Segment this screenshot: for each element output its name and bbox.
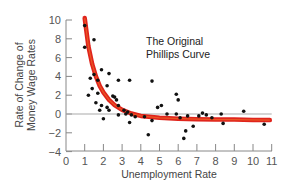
data-point bbox=[124, 112, 128, 116]
data-point bbox=[107, 108, 111, 112]
data-point bbox=[117, 104, 121, 108]
data-point bbox=[160, 104, 164, 108]
data-point bbox=[219, 112, 223, 116]
data-point bbox=[165, 112, 169, 116]
y-axis-label-line-2: Money Wage Rates bbox=[25, 39, 37, 131]
x-tick-label: 2 bbox=[100, 155, 106, 167]
x-tick-label: 5 bbox=[156, 155, 162, 167]
data-point bbox=[175, 112, 179, 116]
data-point bbox=[184, 129, 188, 133]
data-point bbox=[107, 72, 111, 76]
chart-canvas: 1086420−2−4 01234567891011 The Original … bbox=[0, 0, 291, 191]
phillips-curve-path bbox=[85, 18, 270, 120]
x-tick-label: 10 bbox=[247, 155, 259, 167]
data-point bbox=[100, 104, 104, 108]
data-point bbox=[113, 95, 117, 99]
data-point bbox=[83, 24, 87, 28]
x-tick-label: 1 bbox=[82, 155, 88, 167]
y-tick-label: 2 bbox=[55, 89, 61, 101]
data-point bbox=[175, 93, 179, 97]
phillips-curve-chart: 1086420−2−4 01234567891011 The Original … bbox=[0, 0, 291, 191]
x-axis-ticks: 01234567891011 bbox=[63, 144, 277, 167]
data-point bbox=[262, 123, 266, 127]
data-point bbox=[133, 115, 137, 119]
data-point bbox=[105, 84, 109, 88]
data-point bbox=[210, 116, 214, 120]
y-axis-label-line-1: Rate of Change of bbox=[13, 42, 25, 127]
y-tick-label: −4 bbox=[48, 146, 61, 158]
x-tick-label: 0 bbox=[63, 155, 69, 167]
data-point bbox=[94, 101, 98, 105]
y-tick-label: 0 bbox=[55, 108, 61, 120]
data-point bbox=[150, 79, 154, 83]
x-axis-label: Unemployment Rate bbox=[121, 168, 217, 180]
x-tick-label: 4 bbox=[138, 155, 144, 167]
data-point bbox=[205, 113, 209, 117]
data-point bbox=[92, 38, 96, 42]
chart-annotation-line-1: The Original bbox=[146, 35, 203, 47]
x-tick-label: 6 bbox=[175, 155, 181, 167]
y-tick-label: 4 bbox=[55, 70, 61, 82]
x-tick-label: 9 bbox=[231, 155, 237, 167]
x-tick-label: 7 bbox=[194, 155, 200, 167]
data-point bbox=[128, 121, 132, 125]
y-tick-label: 8 bbox=[55, 33, 61, 45]
data-point bbox=[98, 108, 102, 112]
data-point bbox=[191, 124, 195, 128]
data-point bbox=[201, 111, 205, 115]
data-point bbox=[96, 78, 100, 82]
data-point bbox=[128, 78, 132, 82]
x-tick-label: 11 bbox=[266, 155, 277, 167]
y-tick-label: 6 bbox=[55, 52, 61, 64]
data-point bbox=[178, 116, 182, 120]
data-point bbox=[197, 114, 201, 118]
y-axis-ticks: 1086420−2−4 bbox=[48, 14, 72, 158]
data-point bbox=[87, 93, 91, 97]
data-point bbox=[221, 122, 225, 126]
phillips-curve-line bbox=[85, 18, 270, 120]
data-point bbox=[186, 114, 190, 118]
data-point bbox=[92, 73, 96, 77]
data-point bbox=[182, 137, 186, 141]
data-point bbox=[100, 68, 104, 72]
data-point bbox=[122, 108, 126, 112]
data-point bbox=[117, 113, 121, 117]
data-point bbox=[89, 77, 93, 81]
y-tick-label: 10 bbox=[49, 14, 61, 26]
data-point bbox=[96, 92, 100, 96]
data-point bbox=[143, 115, 147, 119]
data-point bbox=[117, 78, 121, 82]
y-tick-label: −2 bbox=[48, 127, 61, 139]
x-tick-label: 3 bbox=[119, 155, 125, 167]
data-point bbox=[130, 113, 134, 117]
data-point bbox=[156, 106, 160, 110]
x-tick-label: 8 bbox=[213, 155, 219, 167]
data-point bbox=[150, 119, 154, 123]
data-point bbox=[242, 109, 246, 113]
data-point bbox=[176, 98, 180, 102]
data-point bbox=[102, 117, 106, 121]
data-point bbox=[147, 133, 151, 137]
data-point bbox=[90, 87, 94, 91]
chart-annotation-line-2: Phillips Curve bbox=[146, 48, 210, 60]
data-point bbox=[83, 46, 87, 50]
